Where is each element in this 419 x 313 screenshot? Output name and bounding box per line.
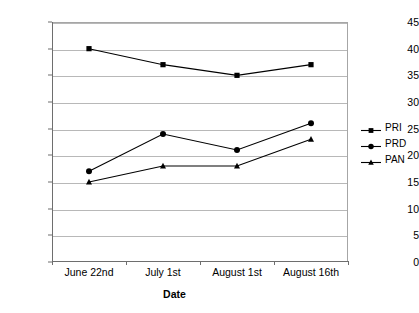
chart-legend: PRIPRDPAN xyxy=(360,122,406,165)
data-point-prd xyxy=(160,131,166,137)
legend-item-pan[interactable]: PAN xyxy=(360,154,406,165)
data-point-pri xyxy=(234,73,239,78)
legend-marker-circle-icon xyxy=(360,138,382,149)
y-axis-tick-label: 10 xyxy=(373,203,419,215)
data-point-pri xyxy=(308,62,313,67)
x-axis-tick-label: June 22nd xyxy=(64,266,113,278)
y-axis-tick-label: 5 xyxy=(373,229,419,241)
x-axis-tick-mark xyxy=(348,261,349,265)
series-line-pri xyxy=(89,49,311,76)
y-axis-tick-label: 35 xyxy=(373,69,419,81)
y-axis-tick-label: 40 xyxy=(373,43,419,55)
x-axis-tick-label: July 1st xyxy=(145,266,181,278)
series-line-pan xyxy=(89,139,311,182)
data-point-pri xyxy=(86,46,91,51)
legend-label: PRD xyxy=(385,138,406,149)
series-layer xyxy=(52,22,348,262)
data-point-prd xyxy=(234,147,240,153)
legend-label: PAN xyxy=(385,154,405,165)
y-axis-tick-label: 15 xyxy=(373,176,419,188)
data-point-prd xyxy=(308,120,314,126)
series-line-prd xyxy=(89,123,311,171)
y-axis-tick-label: 45 xyxy=(373,16,419,28)
data-point-pan xyxy=(308,136,314,142)
x-axis-tick-label: August 16th xyxy=(283,266,339,278)
x-axis-title: Date xyxy=(0,288,419,300)
legend-marker-square-icon xyxy=(360,122,382,133)
y-axis-tick-label: 0 xyxy=(373,256,419,268)
data-point-pri xyxy=(160,62,165,67)
y-axis-tick-label: 30 xyxy=(373,96,419,108)
line-chart: 051015202530354045 June 22ndJuly 1stAugu… xyxy=(0,0,419,313)
legend-label: PRI xyxy=(385,122,402,133)
x-axis-tick-label: August 1st xyxy=(212,266,262,278)
data-point-prd xyxy=(86,168,92,174)
legend-marker-triangle-icon xyxy=(360,154,382,165)
legend-item-prd[interactable]: PRD xyxy=(360,138,406,149)
legend-item-pri[interactable]: PRI xyxy=(360,122,406,133)
